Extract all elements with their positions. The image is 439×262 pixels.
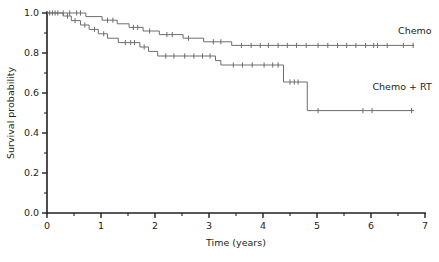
y-tick-label: 0.8 — [24, 47, 39, 58]
axes-group — [47, 12, 425, 213]
y-tick-label: 0.2 — [24, 167, 39, 178]
y-tick-label: 0.6 — [24, 87, 39, 98]
series-label-chemo: Chemo — [398, 25, 432, 36]
x-tick-label: 4 — [260, 220, 266, 231]
x-tick-label: 6 — [368, 220, 374, 231]
y-tick-label: 1.0 — [24, 7, 39, 18]
censor-marks-group — [50, 10, 413, 113]
x-tick-label: 5 — [314, 220, 320, 231]
x-tick-label: 0 — [44, 220, 50, 231]
y-tick-label: 0.0 — [24, 207, 39, 218]
axis-ticks-group — [42, 13, 425, 218]
y-axis-title: Survival probability — [5, 67, 16, 159]
survival-curve-chemo — [47, 13, 414, 45]
axis-tick-labels-group: 012345670.00.20.40.60.81.0 — [24, 7, 428, 231]
survival-curve-chemo-rt — [47, 13, 414, 111]
series-label-chemo-rt: Chemo + RT — [372, 81, 431, 92]
x-tick-label: 1 — [98, 220, 104, 231]
x-tick-label: 2 — [152, 220, 158, 231]
x-axis-title: Time (years) — [205, 237, 266, 248]
y-tick-label: 0.4 — [24, 127, 39, 138]
survival-curves-group — [47, 13, 414, 111]
x-tick-label: 7 — [422, 220, 428, 231]
series-labels-group: ChemoChemo + RT — [372, 25, 431, 92]
km-survival-chart: 012345670.00.20.40.60.81.0 ChemoChemo + … — [0, 0, 439, 262]
x-tick-label: 3 — [206, 220, 212, 231]
km-plot-svg: 012345670.00.20.40.60.81.0 ChemoChemo + … — [0, 0, 439, 262]
